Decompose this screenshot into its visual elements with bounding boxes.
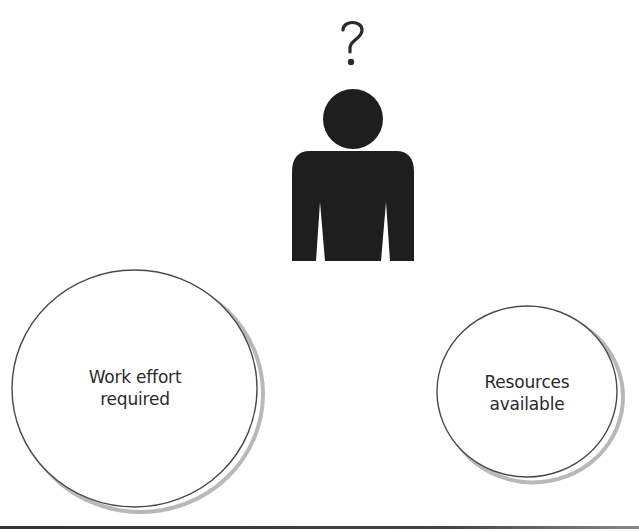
resources-label: Resources available [462, 371, 592, 415]
question-mark-icon [343, 23, 362, 66]
work-effort-line2: required [60, 388, 210, 410]
resources-line1: Resources [462, 371, 592, 393]
person-icon [292, 89, 414, 261]
diagram-canvas [0, 0, 639, 532]
work-effort-label: Work effort required [60, 366, 210, 410]
resources-line2: available [462, 393, 592, 415]
work-effort-line1: Work effort [60, 366, 210, 388]
bottom-divider [0, 526, 639, 529]
